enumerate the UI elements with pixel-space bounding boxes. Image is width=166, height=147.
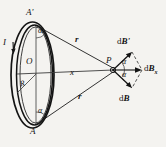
label-dB-lower: dB [119,94,130,103]
label-r-upper: r [75,35,79,44]
physics-diagram: A' A O R I P x r r α α α α dB' dB dBx [0,0,166,147]
coil-outer-ellipse [11,22,54,128]
dB-lower-symbol: B [124,93,130,103]
label-angle-top: α [38,27,42,35]
label-dBx: dBx [144,64,158,75]
r-lower-line [37,72,113,124]
label-angle-upper-at-p: α [122,58,126,66]
label-point-p: P [106,56,112,65]
current-arrowhead-icon [11,49,15,54]
coil-axis-line [17,70,113,74]
label-r-lower: r [78,92,82,101]
label-dB-upper: dB' [117,37,130,46]
label-angle-bottom: α [38,107,42,115]
label-a-prime: A' [26,8,33,17]
dB-upper-symbol: B' [122,36,131,46]
label-angle-lower-at-p: α [122,71,126,79]
diagram-vectors [0,0,166,147]
dBx-sub: x [155,69,158,75]
label-center-o: O [26,57,33,66]
label-a: A [30,127,36,136]
label-axis-distance-x: x [70,68,74,77]
label-current-i: I [3,38,6,47]
